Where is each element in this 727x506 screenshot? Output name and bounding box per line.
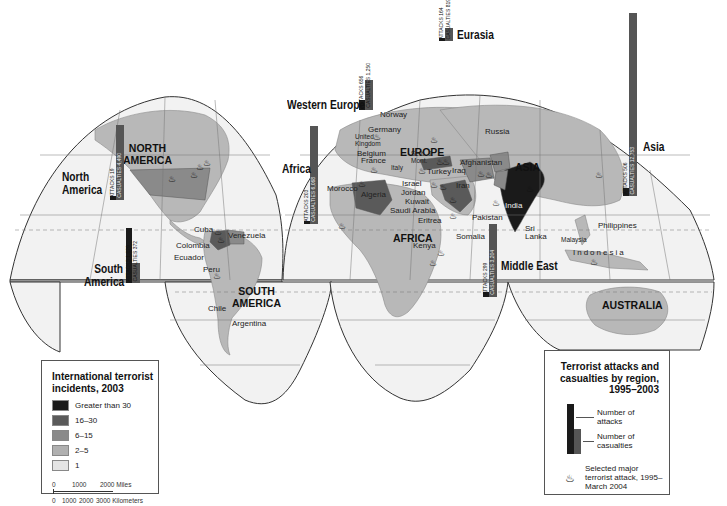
scale-bar: 0 1000 2000 Miles 0 1000 2000 3000 Kilom… xyxy=(52,481,158,506)
fire-icon: ♨ xyxy=(168,175,176,184)
legend-item: 16–30 xyxy=(52,415,158,426)
label-colombia: Colombia xyxy=(176,242,210,250)
legend-item: 1 xyxy=(52,460,158,471)
label-indonesia: Indonesia xyxy=(573,249,626,257)
bar-north-america: ATTACKS 19CASUALTIES 4,490 xyxy=(110,125,124,200)
fire-icon: ♨ xyxy=(526,185,534,194)
fire-icon: ♨ xyxy=(217,236,225,245)
fire-icon: ♨ xyxy=(190,171,198,180)
fire-icon: ♨ xyxy=(565,472,575,485)
fire-icon: ♨ xyxy=(492,199,500,208)
label-chile: Chile xyxy=(208,305,226,313)
bar-eurasia: ATTACKS 164CASUALTIES 819 xyxy=(439,2,453,41)
label-israel: Israel xyxy=(402,180,422,188)
label-malaysia: Malaysia xyxy=(561,237,587,244)
label-eritrea: Eritrea xyxy=(418,217,442,225)
region-label-africa: Africa xyxy=(282,163,311,176)
fire-icon: ♨ xyxy=(485,171,493,180)
lobe-west xyxy=(10,282,60,352)
fire-icon: ♨ xyxy=(430,136,438,145)
lobe-africa xyxy=(330,282,508,401)
fire-icon: ♨ xyxy=(477,170,485,179)
label-iran: Iran xyxy=(456,182,470,190)
legend-casualties-label: Number of casualties xyxy=(597,432,647,450)
label-italy: Italy xyxy=(391,165,403,172)
bar-south-america: ATTACKS 1,029CASUALTIES 372 xyxy=(126,228,140,283)
legend-fire-label: Selected major terrorist attack, 1995–Ma… xyxy=(585,464,665,492)
label-afghanistan: Afghanistan xyxy=(460,159,502,167)
fire-icon: ♨ xyxy=(213,272,221,281)
bar-asia: ATTACKS 506CASUALTIES 12,753 xyxy=(623,13,637,196)
region-label-north-america: North America xyxy=(62,171,99,196)
label-turkey: Turkey xyxy=(427,168,451,176)
fire-icon: ♨ xyxy=(429,259,437,268)
region-label-asia: Asia xyxy=(643,141,665,154)
legend-attacks: Terrorist attacks and casualties by regi… xyxy=(544,350,670,495)
fire-icon: ♨ xyxy=(595,171,603,180)
label-algeria: Algeria xyxy=(361,191,386,199)
fire-icon: ♨ xyxy=(449,196,457,205)
label-iraq: Iraq xyxy=(452,167,466,175)
label-saudi-arabia: Saudi Arabia xyxy=(390,207,435,215)
label-norway: Norway xyxy=(380,111,407,119)
label-morocco: Morocco xyxy=(327,185,358,193)
legend-incidents-title: International terrorist incidents, 2003 xyxy=(52,371,158,394)
label-cuba: Cuba xyxy=(194,226,213,234)
label-sri-lanka: Sri Lanka xyxy=(525,225,547,241)
region-label-middle-east: Middle East xyxy=(501,260,558,273)
label-philippines: Philippines xyxy=(598,222,637,230)
label-asia: ASIA xyxy=(515,162,540,174)
label-russia: Russia xyxy=(485,128,509,136)
label-kuwait: Kuwait xyxy=(405,198,429,206)
legend-attacks-label: Number of attacks xyxy=(597,408,647,426)
fire-icon: ♨ xyxy=(437,249,445,258)
label-pakistan: Pakistan xyxy=(472,214,503,222)
legend-item: Greater than 30 xyxy=(52,400,158,411)
fire-icon: ♨ xyxy=(373,133,381,142)
label-venezuela: Venezuela xyxy=(228,232,265,240)
fire-icon: ♨ xyxy=(370,166,378,175)
label-south-america: SOUTH AMERICA xyxy=(232,286,281,309)
legend-item: 6–15 xyxy=(52,430,158,441)
label-australia: AUSTRALIA xyxy=(602,300,663,312)
legend-item: 2–5 xyxy=(52,445,158,456)
label-india: India xyxy=(505,202,522,210)
fire-icon: ♨ xyxy=(439,183,447,192)
fire-icon: ♨ xyxy=(430,181,438,190)
fire-icon: ♨ xyxy=(418,167,426,176)
region-label-south-america: South America xyxy=(84,263,123,288)
label-ecuador: Ecuador xyxy=(174,254,204,262)
label-north-america: NORTH AMERICA xyxy=(123,143,172,166)
fire-icon: ♨ xyxy=(358,180,366,189)
fire-icon: ♨ xyxy=(442,158,450,167)
label-serbia-montenegro: Serb. & Mont. xyxy=(411,151,433,164)
fire-icon: ♨ xyxy=(590,258,598,267)
region-label-eurasia: Eurasia xyxy=(457,29,494,42)
bar-middle-east: ATTACKS 299CASUALTIES 3,204 xyxy=(483,224,497,297)
legend-incidents: International terrorist incidents, 2003 … xyxy=(41,360,159,494)
fire-icon: ♨ xyxy=(203,159,211,168)
label-somalia: Somalia xyxy=(456,233,485,241)
label-argentina: Argentina xyxy=(232,320,266,328)
region-label-western-europe: Western Europe xyxy=(287,99,365,112)
legend-attacks-title: Terrorist attacks and casualties by regi… xyxy=(557,361,659,396)
label-kenya: Kenya xyxy=(413,242,436,250)
fire-icon: ♨ xyxy=(338,222,346,231)
fire-icon: ♨ xyxy=(449,212,457,221)
label-jordan: Jordan xyxy=(401,189,425,197)
label-france: France xyxy=(361,157,386,165)
